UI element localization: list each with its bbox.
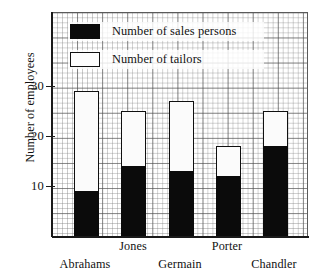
bar-segment-sales-germain — [169, 171, 194, 236]
bar-segment-tailors-germain — [169, 101, 194, 171]
x-tick-label-abrahams: Abrahams — [40, 258, 130, 271]
legend-item-sales-persons: Number of sales persons — [70, 24, 236, 39]
y-axis-title: Number of employees — [23, 33, 38, 183]
bar-segment-tailors-porter — [216, 146, 241, 176]
y-axis-line — [51, 12, 53, 237]
stacked-bar-chart: 30 20 10 Number of employees Abrahams Jo… — [0, 0, 318, 276]
bar-segment-sales-abrahams — [74, 191, 99, 236]
x-tick-label-chandler: Chandler — [229, 258, 318, 271]
x-tick-label-porter: Porter — [182, 240, 272, 253]
x-tick-label-jones: Jones — [88, 240, 178, 253]
bar-segment-tailors-jones — [121, 111, 146, 166]
y-tick-mark-10 — [46, 186, 55, 187]
bar-segment-sales-jones — [121, 166, 146, 236]
y-tick-mark-30 — [46, 86, 55, 87]
bar-segment-sales-porter — [216, 176, 241, 236]
legend-item-tailors: Number of tailors — [70, 52, 202, 67]
legend-label-sales-persons: Number of sales persons — [112, 25, 236, 38]
x-tick-label-germain: Germain — [135, 258, 225, 271]
black-swatch-icon — [70, 24, 100, 39]
x-axis-line — [52, 236, 309, 238]
bar-segment-tailors-chandler — [263, 111, 288, 146]
plot-area — [52, 12, 308, 237]
y-tick-mark-20 — [46, 136, 55, 137]
bar-segment-sales-chandler — [263, 146, 288, 236]
bar-segment-tailors-abrahams — [74, 91, 99, 191]
legend-label-tailors: Number of tailors — [112, 53, 202, 66]
white-swatch-icon — [70, 52, 100, 67]
